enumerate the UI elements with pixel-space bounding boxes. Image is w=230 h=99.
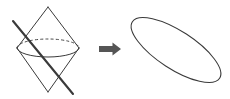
base-circle-front-solid (17, 48, 79, 57)
conic-section-figure: Conic section: plane cutting a double co… (0, 0, 230, 99)
double-cone-group (13, 7, 79, 94)
right-arrow-icon (99, 43, 121, 56)
figure-canvas (0, 0, 230, 99)
implies-arrow-group (99, 43, 121, 56)
base-circle-back-dashed (17, 39, 79, 48)
cutting-plane-line (13, 21, 73, 94)
result-ellipse (122, 6, 230, 95)
cone-edge-top-left (17, 7, 48, 48)
cone-edge-bottom-left (17, 48, 48, 92)
result-ellipse-group (122, 6, 230, 95)
cone-edge-top-right (48, 7, 79, 48)
